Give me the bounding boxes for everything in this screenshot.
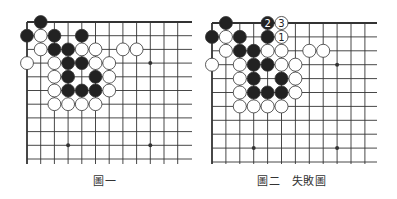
move-number-label: 1 xyxy=(278,32,284,43)
black-stone xyxy=(261,86,274,99)
move-number-label: 2 xyxy=(264,18,270,29)
black-stone xyxy=(261,58,274,71)
white-stone xyxy=(289,72,302,85)
black-stone xyxy=(247,86,260,99)
white-stone xyxy=(261,100,274,113)
black-stone xyxy=(247,44,260,57)
white-stone xyxy=(289,86,302,99)
black-stone xyxy=(233,44,246,57)
diagram-2-caption: 圖二 失敗圖 xyxy=(257,172,326,188)
white-stone xyxy=(233,72,246,85)
white-stone xyxy=(233,58,246,71)
black-stone xyxy=(233,30,246,43)
move-number-label: 3 xyxy=(278,18,284,29)
black-stone xyxy=(205,30,218,43)
white-stone xyxy=(275,44,288,57)
white-stone xyxy=(275,58,288,71)
white-stone xyxy=(219,30,232,43)
white-stone xyxy=(303,44,316,57)
black-stone xyxy=(247,72,260,85)
white-stone xyxy=(233,100,246,113)
black-stone xyxy=(247,58,260,71)
white-stone xyxy=(275,100,288,113)
white-stone xyxy=(247,100,260,113)
white-stone xyxy=(261,44,274,57)
white-stone xyxy=(219,44,232,57)
black-stone xyxy=(275,72,288,85)
white-stone xyxy=(233,86,246,99)
diagram-1-caption: 圖一 xyxy=(93,172,116,188)
white-stone xyxy=(317,44,330,57)
black-stone xyxy=(219,16,232,29)
go-board-diagram-2: 123 xyxy=(0,0,397,199)
black-stone xyxy=(261,30,274,43)
white-stone xyxy=(205,58,218,71)
star-point xyxy=(335,146,339,150)
star-point xyxy=(252,146,256,150)
white-stone xyxy=(289,58,302,71)
star-point xyxy=(335,63,339,67)
black-stone xyxy=(275,86,288,99)
